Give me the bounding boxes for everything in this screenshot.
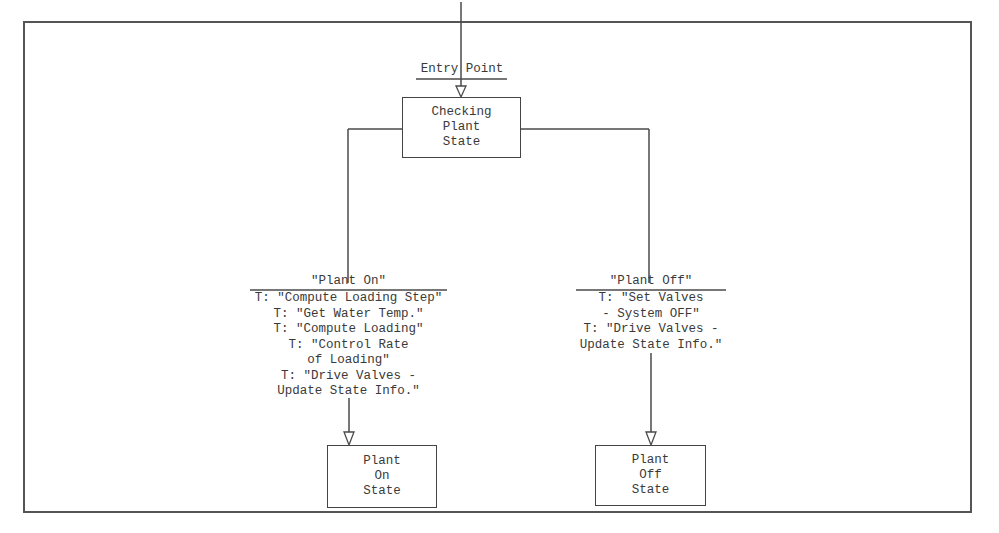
entry-arrowhead-icon	[456, 86, 466, 97]
action-line: - System OFF"	[566, 307, 736, 323]
state-line: State	[363, 484, 401, 499]
action-line: T: "Drive Valves -	[240, 369, 457, 385]
plant-on-actions: T: "Compute Loading Step" T: "Get Water …	[240, 291, 457, 400]
action-line: Update State Info."	[566, 338, 736, 354]
plant-off-actions: T: "Set Valves - System OFF" T: "Drive V…	[566, 291, 736, 353]
checking-plant-state-box: Checking Plant State	[402, 97, 521, 158]
plant-on-arrowhead-icon	[344, 432, 354, 445]
plant-off-state-box: Plant Off State	[595, 445, 706, 506]
action-line: T: "Drive Valves -	[566, 322, 736, 338]
plant-off-condition: "Plant Off"	[576, 274, 726, 290]
action-line: T: "Get Water Temp."	[240, 307, 457, 323]
state-line: On	[374, 469, 389, 484]
action-line: Update State Info."	[240, 384, 457, 400]
connector-lines	[0, 0, 999, 533]
state-line: Plant	[363, 454, 401, 469]
plant-on-state-box: Plant On State	[327, 445, 437, 508]
action-line: of Loading"	[240, 353, 457, 369]
entry-point-label: Entry Point	[416, 62, 508, 78]
plant-on-condition: "Plant On"	[250, 274, 447, 290]
action-line: T: "Compute Loading Step"	[240, 291, 457, 307]
action-line: T: "Control Rate	[240, 338, 457, 354]
state-line: Checking	[431, 105, 491, 120]
plant-off-arrowhead-icon	[646, 432, 656, 445]
state-line: State	[632, 483, 670, 498]
action-line: T: "Set Valves	[566, 291, 736, 307]
state-line: Plant	[443, 120, 481, 135]
state-line: State	[443, 135, 481, 150]
state-line: Plant	[632, 453, 670, 468]
action-line: T: "Compute Loading"	[240, 322, 457, 338]
state-line: Off	[639, 468, 662, 483]
